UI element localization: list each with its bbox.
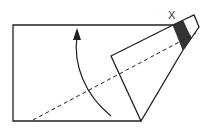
fold-line: [33, 33, 196, 120]
arrow-head-icon: [73, 28, 81, 40]
label-x: X: [168, 9, 176, 21]
fold-arrow: [76, 36, 111, 116]
folding-diagram: X: [0, 0, 209, 129]
